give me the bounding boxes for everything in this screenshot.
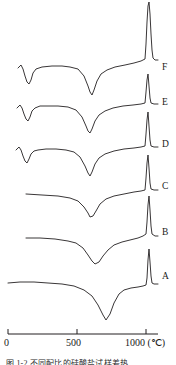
- curve-d: [16, 112, 158, 176]
- curve-c: [26, 155, 158, 217]
- curve-e: [17, 74, 158, 133]
- figure-caption: 图 1-2 不同配比的硅酸盐试样差热: [6, 357, 176, 365]
- curve-label-b: B: [162, 228, 168, 238]
- curve-b: [26, 196, 158, 264]
- curves-plot-area: [0, 0, 176, 365]
- x-axis-tick-label-1000: 1000 (℃): [125, 338, 165, 348]
- curve-label-f: F: [162, 63, 167, 73]
- curve-label-c: C: [162, 182, 168, 192]
- curve-label-d: D: [162, 140, 169, 150]
- x-axis-tick-label-500: 500: [66, 338, 81, 348]
- dta-thermal-analysis-figure: 0 500 1000 (℃) FEDCBA 图 1-2 不同配比的硅酸盐试样差热: [0, 0, 176, 365]
- curve-a: [8, 249, 158, 320]
- x-axis-group: [8, 329, 158, 334]
- curve-label-e: E: [162, 98, 168, 108]
- curve-f: [18, 2, 158, 95]
- curve-label-a: A: [162, 272, 169, 282]
- x-axis-tick-label-0: 0: [4, 338, 9, 348]
- curve-paths-group: [8, 2, 158, 320]
